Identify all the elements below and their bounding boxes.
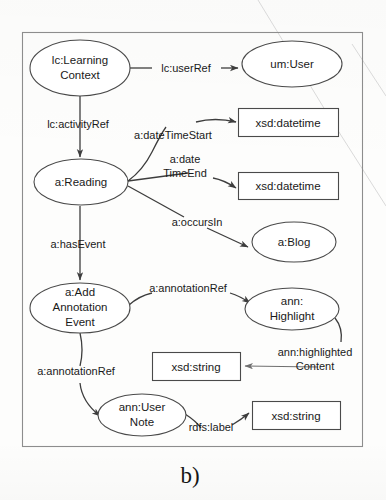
node-ann-highlight[interactable]: ann: Highlight bbox=[245, 288, 339, 330]
node-xsd-datetime-start[interactable]: xsd:datetime bbox=[239, 109, 339, 137]
edge-label-activity-ref: lc:activityRef bbox=[47, 118, 110, 130]
edge-annotation-ref-highlight: a:annotationRef bbox=[129, 282, 250, 305]
edge-label-date-time-end-line2: TimeEnd bbox=[163, 167, 207, 179]
edge-label-rdfs-label: rdfs:label bbox=[189, 421, 234, 433]
node-um-user[interactable]: um:User bbox=[242, 41, 342, 87]
edge-label-annotation-ref-note: a:annotationRef bbox=[37, 365, 116, 377]
node-a-blog[interactable]: a:Blog bbox=[252, 222, 336, 262]
node-label-xsd-string-highlight: xsd:string bbox=[171, 361, 220, 373]
node-label-a-blog: a:Blog bbox=[278, 236, 311, 248]
figure-caption: b) bbox=[180, 463, 199, 488]
node-xsd-string-label[interactable]: xsd:string bbox=[253, 402, 341, 430]
node-ann-user-note[interactable]: ann:User Note bbox=[98, 394, 186, 436]
edge-activity-ref: lc:activityRef bbox=[47, 96, 110, 157]
node-label-add-annotation-event-line2: Annotation bbox=[53, 301, 108, 313]
edge-annotation-ref-note: a:annotationRef bbox=[37, 333, 116, 416]
node-add-annotation-event[interactable]: a:Add Annotation Event bbox=[30, 283, 130, 333]
node-label-a-reading: a:Reading bbox=[55, 176, 107, 188]
node-label-xsd-datetime-start: xsd:datetime bbox=[255, 117, 320, 129]
node-label-learning-context-line2: Context bbox=[60, 69, 100, 81]
node-learning-context[interactable]: lc:Learning Context bbox=[30, 40, 130, 96]
edge-user-ref: lc:userRef bbox=[130, 62, 238, 74]
ontology-diagram: lc:userRef lc:activityRef a:dateTimeStar… bbox=[0, 0, 386, 500]
edge-occurs-in: a:occursIn bbox=[128, 186, 248, 247]
node-label-add-annotation-event-line3: Event bbox=[65, 316, 95, 328]
node-xsd-datetime-end[interactable]: xsd:datetime bbox=[239, 173, 339, 200]
edge-has-event: a:hasEvent bbox=[50, 206, 105, 280]
edge-label-annotation-ref-highlight: a:annotationRef bbox=[149, 282, 228, 294]
edge-label-highlighted-content-line1: ann:highlighted bbox=[278, 346, 353, 358]
edge-label-date-time-start: a:dateTimeStart bbox=[134, 129, 212, 141]
edge-label-highlighted-content-line2: Content bbox=[296, 360, 335, 372]
node-label-add-annotation-event-line1: a:Add bbox=[65, 286, 95, 298]
edge-label-user-ref: lc:userRef bbox=[161, 62, 211, 74]
edge-label-date-time-end-line1: a:date bbox=[170, 153, 201, 165]
node-label-xsd-datetime-end: xsd:datetime bbox=[255, 180, 320, 192]
edge-label-has-event: a:hasEvent bbox=[50, 238, 105, 250]
figure-page: lc:userRef lc:activityRef a:dateTimeStar… bbox=[0, 0, 386, 500]
node-label-xsd-string-label: xsd:string bbox=[271, 410, 320, 422]
node-label-um-user: um:User bbox=[270, 58, 314, 70]
node-xsd-string-highlight[interactable]: xsd:string bbox=[153, 353, 241, 381]
edge-label-occurs-in: a:occursIn bbox=[172, 216, 223, 228]
node-a-reading[interactable]: a:Reading bbox=[34, 159, 128, 205]
edge-date-time-end: a:date TimeEnd bbox=[128, 153, 236, 188]
node-label-ann-highlight-line1: ann: bbox=[281, 295, 303, 307]
edge-rdfs-label: rdfs:label bbox=[185, 413, 249, 433]
node-label-ann-highlight-line2: Highlight bbox=[270, 310, 316, 322]
node-label-learning-context-line1: lc:Learning bbox=[52, 54, 108, 66]
node-label-ann-user-note-line2: Note bbox=[130, 416, 154, 428]
node-label-ann-user-note-line1: ann:User bbox=[119, 401, 166, 413]
